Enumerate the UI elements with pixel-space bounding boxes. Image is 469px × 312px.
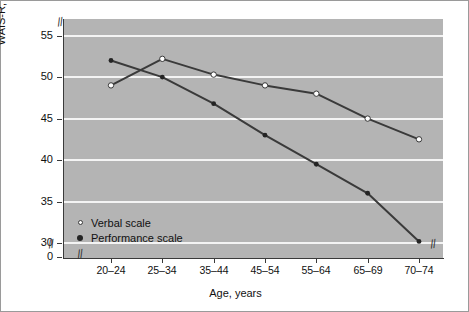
y-axis-tick-label: 55 [41,30,53,41]
data-point [314,91,319,96]
x-axis-tick [214,258,215,263]
y-axis-tick [57,257,62,258]
open-circle-icon [73,220,87,225]
x-axis-tick [316,258,317,263]
y-axis-tick [57,160,62,161]
data-point [365,191,370,196]
x-axis-tick [368,258,369,263]
y-axis-tick-label: 0 [47,251,53,262]
data-point [160,75,165,80]
legend-label: Verbal scale [91,217,151,229]
x-axis-tick [419,258,420,263]
x-axis-tick-label: 45–54 [241,265,289,276]
axis-break-mark: // [47,237,55,251]
filled-circle-icon [73,235,87,241]
x-axis-tick-label: 70–74 [395,265,443,276]
series-line [111,59,419,139]
x-axis-tick [111,258,112,263]
legend-item-verbal-scale: Verbal scale [73,215,183,230]
y-axis-tick-label: 50 [41,71,53,82]
x-axis-tick-label: 25–34 [138,265,186,276]
x-axis-tick-label: 55–64 [292,265,340,276]
legend-item-performance-scale: Performance scale [73,230,183,245]
y-axis-tick [57,243,62,244]
data-point [160,56,165,61]
data-point [211,72,216,77]
x-axis-line [63,258,444,259]
x-axis-tick-label: 35–44 [190,265,238,276]
y-axis-tick [57,77,62,78]
y-axis-tick-label: 35 [41,196,53,207]
y-axis-tick [57,36,62,37]
data-point [211,101,216,106]
data-point [365,116,370,121]
data-point [108,83,113,88]
y-axis-tick [57,119,62,120]
data-point [262,83,267,88]
y-axis-title: WAIS-R, scaled scores [0,0,7,69]
y-axis-tick-label: 45 [41,113,53,124]
x-axis-tick-label: 65–69 [344,265,392,276]
data-point [109,58,114,63]
axis-break-mark: // [56,15,64,29]
data-point [416,137,421,142]
y-axis-tick-label: 40 [41,154,53,165]
data-point [263,133,268,138]
x-axis-tick [265,258,266,263]
x-axis-tick-label: 20–24 [87,265,135,276]
legend-label: Performance scale [91,232,183,244]
x-axis-title: Age, years [1,287,469,299]
data-point [417,239,422,244]
y-axis-tick [57,202,62,203]
chart-legend: Verbal scale Performance scale [73,215,183,245]
data-point [314,162,319,167]
x-axis-tick [162,258,163,263]
chart-figure: 0303540455055 WAIS-R, scaled scores 20–2… [0,0,469,312]
